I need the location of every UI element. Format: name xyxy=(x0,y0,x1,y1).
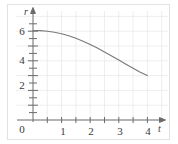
y-tick-label-4: 4 xyxy=(16,55,28,66)
x-tick-label-3: 3 xyxy=(114,126,126,137)
x-tick-label-4: 4 xyxy=(142,126,154,137)
x-tick-label-0: 0 xyxy=(16,124,28,135)
x-tick-label-2: 2 xyxy=(85,126,97,137)
x-tick-label-1: 1 xyxy=(57,126,69,137)
chart-canvas xyxy=(0,0,178,144)
y-tick-label-2: 2 xyxy=(16,80,28,91)
tick-marks xyxy=(28,24,147,123)
y-tick-label-6: 6 xyxy=(16,26,28,37)
chart-figure: r t 0 1 2 3 4 2 4 6 xyxy=(0,0,178,144)
y-axis-label: r xyxy=(24,7,28,17)
x-axis-label: t xyxy=(158,124,161,134)
grid-lines xyxy=(16,11,168,120)
